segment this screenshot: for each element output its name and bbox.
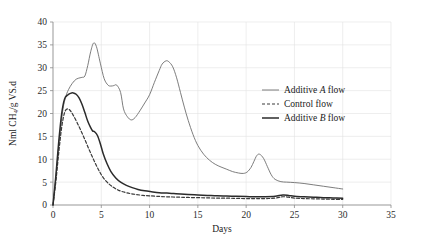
y-tick-label: 30 bbox=[38, 63, 48, 73]
x-tick-label: 15 bbox=[193, 210, 203, 220]
y-axis-title: Nml CH4/g VS.d bbox=[8, 81, 20, 146]
x-tick-label: 10 bbox=[145, 210, 155, 220]
y-tick-label: 5 bbox=[42, 178, 47, 188]
x-tick-label: 5 bbox=[99, 210, 104, 220]
x-tick-label: 20 bbox=[241, 210, 251, 220]
y-tick-label: 25 bbox=[38, 86, 48, 96]
x-axis-title: Days bbox=[212, 224, 232, 234]
y-tick-label: 0 bbox=[42, 200, 47, 210]
x-tick-label: 25 bbox=[290, 210, 300, 220]
x-tick-label: 35 bbox=[386, 210, 396, 220]
legend-label-3: Additive B flow bbox=[284, 113, 345, 123]
line-chart: 05101520253035 0510152025303540 DaysNml … bbox=[0, 0, 439, 240]
y-tick-label: 15 bbox=[38, 132, 48, 142]
legend-label-1: Additive A flow bbox=[284, 85, 345, 95]
chart-figure: 05101520253035 0510152025303540 DaysNml … bbox=[0, 0, 439, 240]
x-tick-label: 30 bbox=[338, 210, 348, 220]
y-tick-labels: 0510152025303540 bbox=[38, 17, 48, 210]
y-tick-label: 35 bbox=[38, 40, 48, 50]
legend-label-2: Control flow bbox=[284, 99, 333, 109]
x-tick-labels: 05101520253035 bbox=[51, 210, 396, 220]
y-tick-label: 40 bbox=[38, 17, 48, 27]
chart-legend: Additive A flowControl flowAdditive B fl… bbox=[262, 85, 345, 123]
x-tick-label: 0 bbox=[51, 210, 56, 220]
y-tick-label: 10 bbox=[38, 155, 48, 165]
y-tick-label: 20 bbox=[38, 109, 48, 119]
